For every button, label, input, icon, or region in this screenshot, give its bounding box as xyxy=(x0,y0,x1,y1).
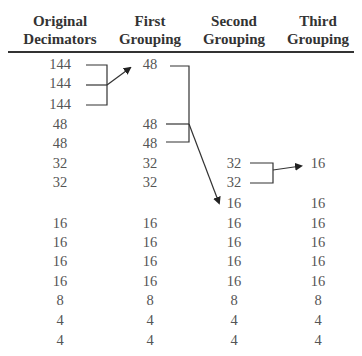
grouping-connectors xyxy=(0,0,362,356)
bracket-32-group xyxy=(250,163,301,183)
arrow-icon xyxy=(107,68,130,85)
arrow-icon xyxy=(273,166,301,170)
bracket-144-group xyxy=(86,65,130,105)
arrow-icon xyxy=(189,124,219,203)
bracket-48-group xyxy=(166,66,219,203)
